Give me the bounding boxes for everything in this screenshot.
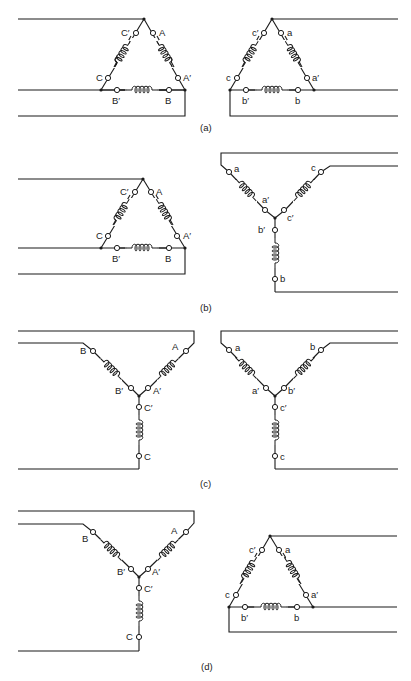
label-cp: c′ bbox=[287, 212, 294, 223]
label-Ap: A′ bbox=[183, 230, 191, 241]
panel-a-primary-delta: C′ A C A′ B′ B bbox=[18, 17, 191, 116]
terminal-bp bbox=[243, 87, 248, 92]
label-B: B bbox=[165, 253, 171, 264]
label-c: c bbox=[280, 451, 285, 462]
label-Bp: B′ bbox=[112, 253, 120, 264]
terminal-Cp bbox=[133, 30, 138, 35]
label-C: C bbox=[96, 230, 103, 241]
label-B: B bbox=[80, 345, 86, 356]
label-bp: b′ bbox=[288, 385, 295, 396]
label-ap: a′ bbox=[312, 72, 319, 83]
panel-c: B A B′ A′ C′ C bbox=[18, 331, 398, 489]
label-C: C bbox=[96, 72, 103, 83]
label-c: c bbox=[225, 589, 230, 600]
label-A: A bbox=[159, 27, 166, 38]
caption-c: (c) bbox=[200, 478, 211, 489]
panel-a: C′ A C A′ B′ B bbox=[18, 17, 398, 133]
label-A: A bbox=[172, 341, 179, 352]
label-b: b bbox=[310, 341, 315, 352]
label-c: c bbox=[226, 72, 231, 83]
label-Cp: C′ bbox=[144, 402, 153, 413]
terminal-Ap bbox=[175, 75, 180, 80]
label-ap: a′ bbox=[311, 589, 318, 600]
terminal-ap bbox=[304, 75, 309, 80]
caption-b: (b) bbox=[200, 302, 212, 313]
label-cp: c′ bbox=[252, 27, 259, 38]
label-cp: c′ bbox=[280, 402, 287, 413]
panel-b: C′ A C A′ B′ B bbox=[18, 153, 398, 313]
terminal-a bbox=[278, 30, 283, 35]
label-b: b bbox=[294, 612, 299, 623]
label-bp: b′ bbox=[258, 224, 265, 235]
terminal-c bbox=[234, 75, 239, 80]
label-Ap: A′ bbox=[152, 566, 160, 577]
panel-d: B A B′ A′ C′ C bbox=[18, 511, 397, 672]
label-B: B bbox=[82, 533, 88, 544]
terminal-C bbox=[105, 75, 110, 80]
label-ap: a′ bbox=[262, 194, 269, 205]
label-Bp: B′ bbox=[117, 566, 125, 577]
label-b: b bbox=[280, 273, 285, 284]
panel-b-primary-delta: C′ A C A′ B′ B bbox=[18, 177, 191, 274]
label-Ap: A′ bbox=[153, 385, 161, 396]
terminal-cp bbox=[261, 30, 266, 35]
panel-d-primary-wye: B A B′ A′ C′ C bbox=[18, 511, 194, 651]
terminal-Bp bbox=[114, 87, 119, 92]
panel-a-secondary-delta: c′ a c a′ b′ b bbox=[226, 17, 398, 116]
label-bp: b′ bbox=[242, 95, 249, 106]
label-Bp: B′ bbox=[112, 95, 120, 106]
label-C: C bbox=[126, 631, 133, 642]
label-A: A bbox=[171, 525, 178, 536]
label-Cp: C′ bbox=[121, 27, 130, 38]
label-Ap: A′ bbox=[183, 72, 191, 83]
label-c: c bbox=[311, 162, 316, 173]
label-b: b bbox=[295, 95, 300, 106]
label-A: A bbox=[156, 186, 163, 197]
label-Cp: C′ bbox=[120, 186, 129, 197]
label-B: B bbox=[165, 95, 171, 106]
label-a: a bbox=[235, 342, 241, 353]
panel-c-secondary-wye: a b a′ b′ c′ c bbox=[221, 331, 398, 469]
panel-b-secondary-wye: a c a′ c′ b′ b bbox=[221, 153, 398, 292]
label-Bp: B′ bbox=[115, 385, 123, 396]
panel-d-secondary-delta: c′ a c a′ b′ b bbox=[225, 534, 397, 632]
terminal-B bbox=[166, 87, 171, 92]
caption-d: (d) bbox=[201, 661, 213, 672]
label-C: C bbox=[144, 451, 151, 462]
terminal-b bbox=[295, 87, 300, 92]
terminal-A bbox=[150, 30, 155, 35]
label-bp: b′ bbox=[241, 612, 248, 623]
label-Cp: C′ bbox=[144, 583, 153, 594]
transformer-connection-diagram: C′ A C A′ B′ B bbox=[0, 0, 411, 681]
caption-a: (a) bbox=[200, 122, 212, 133]
label-a: a bbox=[287, 27, 293, 38]
label-a: a bbox=[285, 544, 291, 555]
label-ap: a′ bbox=[252, 385, 259, 396]
label-a: a bbox=[234, 163, 240, 174]
panel-c-primary-wye: B A B′ A′ C′ C bbox=[18, 331, 194, 469]
label-cp: c′ bbox=[249, 544, 256, 555]
